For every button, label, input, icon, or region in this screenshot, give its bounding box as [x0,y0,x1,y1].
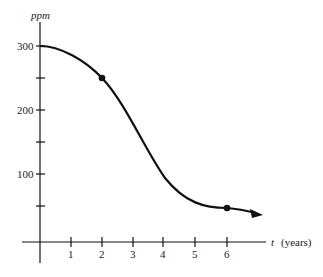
x-tick-label-4: 4 [160,248,166,260]
y-tick-label-300: 300 [17,40,34,52]
arrowhead-icon [250,209,263,218]
x-tick-label-1: 1 [68,248,74,260]
x-axis-unit: (years) [281,236,312,249]
y-tick-label-200: 200 [17,104,34,116]
ppm-curve [40,46,256,213]
x-tick-label-2: 2 [99,248,105,260]
chart: 300 200 100 1 2 3 4 5 6 ppm t (years) [0,0,323,277]
x-tick-label-3: 3 [130,248,136,260]
point-t2 [99,75,106,82]
y-tick-label-100: 100 [17,168,34,180]
x-tick-label-5: 5 [192,248,198,260]
y-axis-label: ppm [30,9,50,21]
x-tick-label-6: 6 [224,248,230,260]
x-axis-label: t [271,236,275,248]
point-t6 [224,205,231,212]
